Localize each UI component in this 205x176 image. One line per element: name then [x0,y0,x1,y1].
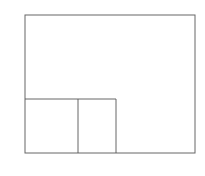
cdf-diagram [0,0,205,176]
plot-frame [25,15,195,153]
